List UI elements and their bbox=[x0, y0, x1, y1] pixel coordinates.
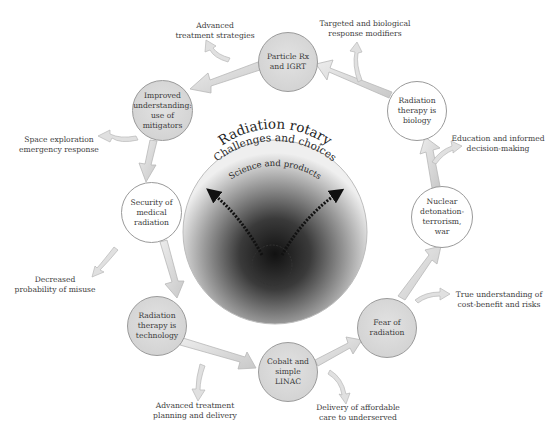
outcome-space-exploration: Space exploration emergency response bbox=[14, 135, 104, 155]
node-particle-rx-igrt: Particle Rx and IGRT bbox=[258, 32, 318, 92]
node-radiation-therapy-biology: Radiation therapy is biology bbox=[387, 81, 447, 141]
outcome-education: Education and informed decision-making bbox=[448, 134, 548, 154]
node-cobalt-simple-linac: Cobalt and simple LINAC bbox=[258, 342, 318, 402]
outcome-delivery-affordable: Delivery of affordable care to underserv… bbox=[308, 403, 408, 423]
node-radiation-therapy-technology: Radiation therapy is technology bbox=[127, 296, 187, 356]
node-security-medical-radiation: Security of medical radiation bbox=[121, 182, 182, 243]
outcome-targeted-modifiers: Targeted and biological response modifie… bbox=[310, 19, 420, 39]
node-improved-understanding: Improved understanding: use of mitigator… bbox=[132, 80, 193, 141]
outcome-true-understanding: True understanding of cost-benefit and r… bbox=[450, 290, 548, 310]
node-fear-of-radiation: Fear of radiation bbox=[357, 298, 417, 358]
radiation-rotary-diagram: Radiation rotary Challenges and choices … bbox=[0, 0, 548, 436]
node-nuclear-detonation: Nuclear detonation- terrorism, war bbox=[411, 186, 473, 248]
outcome-advanced-planning: Advanced treatment planning and delivery bbox=[145, 401, 245, 421]
outcome-advanced-strategies: Advanced treatment strategies bbox=[165, 21, 265, 41]
outcome-decreased-misuse: Decreased probability of misuse bbox=[10, 275, 100, 295]
